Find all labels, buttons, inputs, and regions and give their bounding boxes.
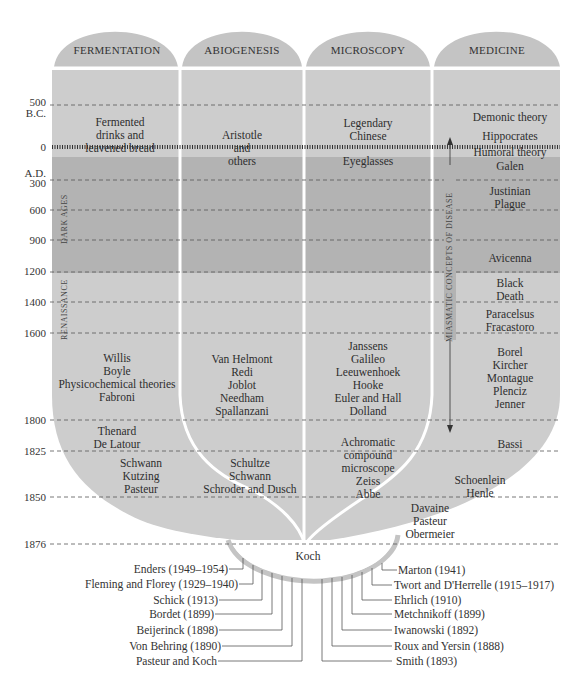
year-0: 0	[0, 142, 46, 153]
medicine-justinian: JustinianPlague	[458, 185, 562, 211]
convergence-koch: Koch	[283, 550, 333, 563]
era-miasmatic: MIASMATIC CONCEPTS OF DISEASE	[445, 193, 454, 342]
microscopy-1825-1850: ZeissAbbe	[306, 475, 430, 501]
fermentation-1600-1800: WillisBoylePhysicochemical theoriesFabro…	[56, 352, 178, 404]
microscopy-achromatic: Achromaticcompoundmicroscope	[306, 436, 430, 475]
abiogenesis-ancient: Aristotleandothers	[182, 129, 302, 168]
branch-right-1: Twort and D'Herrelle (1915–1917)	[394, 579, 554, 592]
medicine-1400-1600: ParacelsusFracastoro	[458, 308, 562, 334]
year-1800: 1800	[0, 415, 46, 426]
fermentation-1825-1850: SchwannKutzingPasteur	[80, 457, 202, 496]
medicine-humoral: Humoral theory	[458, 146, 562, 159]
branch-right-4: Iwanowski (1892)	[394, 624, 478, 637]
medicine-avicenna: Avicenna	[458, 252, 562, 265]
year-600: 600	[0, 205, 46, 216]
microscopy-ancient: LegendaryChinese	[306, 117, 430, 143]
medicine-1825-1850: SchoenleinHenle	[420, 474, 540, 500]
year-1200: 1200	[0, 266, 46, 277]
year-1876: 1876	[0, 539, 46, 550]
abiogenesis-1600-1800: Van HelmontRediJoblotNeedhamSpallanzani	[182, 353, 302, 418]
column-header-medicine: MEDICINE	[434, 44, 560, 56]
branch-left-4: Beijerinck (1898)	[137, 624, 218, 637]
medicine-demonic: Demonic theory	[458, 111, 562, 124]
column-header-microscopy: MICROSCOPY	[306, 44, 430, 56]
medicine-black-death: BlackDeath	[458, 277, 562, 303]
branch-left-6: Pasteur and Koch	[136, 655, 217, 668]
year-1825: 1825	[0, 446, 46, 457]
medicine-bassi: Bassi	[458, 438, 562, 451]
branch-right-3: Metchnikoff (1899)	[394, 608, 485, 621]
year-bc: B.C.	[0, 108, 46, 119]
microscopy-1600-1800: JanssensGalileoLeeuwenhoekHookeEuler and…	[306, 340, 430, 418]
branch-right-5: Roux and Yersin (1888)	[394, 640, 504, 653]
year-1400: 1400	[0, 297, 46, 308]
fermentation-1800-1825: ThenardDe Latour	[56, 425, 178, 451]
branch-right-0: Marton (1941)	[398, 564, 465, 577]
medicine-hippocrates: Hippocrates	[458, 130, 562, 143]
medicine-1600-1800: BorelKircherMontaguePlencizJenner	[458, 346, 562, 411]
abiogenesis-1825-1850: SchultzeSchwannSchroder and Dusch	[190, 457, 310, 496]
year-300: 300	[0, 178, 46, 189]
era-renaissance: RENAISSANCE	[60, 279, 69, 340]
year-1850: 1850	[0, 492, 46, 503]
microscopy-eyeglasses: Eyeglasses	[306, 155, 430, 168]
branch-left-5: Von Behring (1890)	[129, 640, 221, 653]
column-header-abiogenesis: ABIOGENESIS	[182, 44, 302, 56]
branch-left-2: Schick (1913)	[153, 594, 218, 607]
branch-right-6: Smith (1893)	[396, 655, 457, 668]
year-1600: 1600	[0, 328, 46, 339]
fermentation-ancient: Fermented drinks and leavened bread	[80, 116, 160, 155]
medicine-galen: Galen	[458, 160, 562, 173]
branch-right-2: Ehrlich (1910)	[394, 594, 461, 607]
branch-left-3: Bordet (1899)	[149, 608, 214, 621]
era-dark-ages: DARK AGES	[60, 194, 69, 244]
medicine-1850-1876: DavainePasteurObermeier	[380, 502, 480, 541]
year-900: 900	[0, 235, 46, 246]
column-header-fermentation: FERMENTATION	[56, 44, 178, 56]
branch-left-1: Fleming and Florey (1929–1940)	[85, 578, 238, 591]
branch-left-0: Enders (1949–1954)	[134, 563, 228, 576]
